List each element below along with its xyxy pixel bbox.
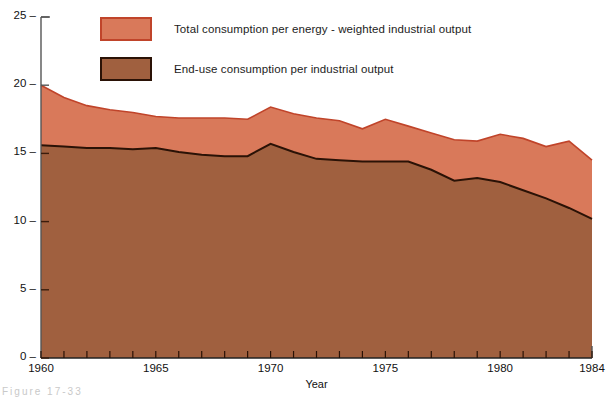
legend-label-total: Total consumption per energy - weighted …: [174, 23, 471, 35]
y-tick-label: 25 –: [0, 9, 36, 21]
x-tick-label: 1975: [362, 362, 408, 374]
legend-swatch-total: [100, 17, 152, 41]
chart-legend: Total consumption per energy - weighted …: [100, 16, 471, 96]
y-tick-label: 0 –: [0, 350, 36, 362]
y-tick-label: 5 –: [0, 282, 36, 294]
x-axis-title: Year: [287, 378, 347, 390]
x-tick-label: 1960: [18, 362, 64, 374]
legend-item-total: Total consumption per energy - weighted …: [100, 16, 471, 42]
y-tick-label: 15 –: [0, 145, 36, 157]
figure-caption: Figure 17-33: [2, 386, 83, 397]
legend-swatch-enduse: [100, 57, 152, 81]
y-tick-label: 10 –: [0, 214, 36, 226]
x-tick-label: 1980: [477, 362, 523, 374]
legend-item-enduse: End-use consumption per industrial outpu…: [100, 56, 471, 82]
x-tick-label: 1970: [248, 362, 294, 374]
x-tick-label: 1965: [133, 362, 179, 374]
y-tick-label: 20 –: [0, 77, 36, 89]
x-tick-label: 1984: [569, 362, 608, 374]
legend-label-enduse: End-use consumption per industrial outpu…: [174, 63, 394, 75]
figure-root: Total consumption per energy - weighted …: [0, 0, 608, 399]
